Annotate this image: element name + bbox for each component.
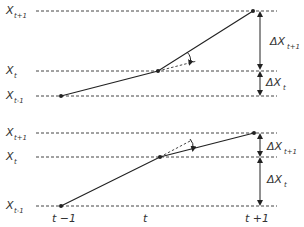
svg-text:X: X	[5, 126, 14, 139]
svg-text:t+1: t+1	[14, 134, 27, 142]
tick-t-plus-1: t +1	[245, 212, 269, 225]
delta-label-t-bottom: ΔX t	[266, 173, 287, 189]
label-x-t-top: X t	[5, 64, 17, 80]
label-x-t-plus-1-top: X t+1	[5, 4, 27, 20]
svg-text:X: X	[5, 89, 14, 102]
label-x-t-bottom: X t	[5, 150, 17, 166]
extrapolation-line-top	[158, 61, 197, 71]
svg-text:ΔX: ΔX	[265, 76, 282, 89]
tick-t-minus-1: t −1	[52, 212, 76, 225]
point-t-minus-1-top	[59, 94, 63, 98]
point-t-minus-1-bottom	[59, 204, 63, 208]
bottom-panel: X t+1 X t X t-1 ΔX t+1 ΔX t	[5, 126, 297, 215]
delta-label-t-plus-1-top: ΔX t+1	[269, 35, 300, 51]
point-t-plus-1-bottom	[252, 131, 256, 135]
top-panel: X t+1 X t X t-1 ΔX t+1	[5, 4, 300, 105]
svg-text:t-1: t-1	[14, 207, 24, 215]
tick-t: t	[143, 212, 148, 225]
point-t-plus-1-top	[251, 9, 255, 13]
svg-text:X: X	[5, 150, 14, 163]
svg-text:t: t	[14, 158, 17, 166]
svg-text:t: t	[283, 84, 286, 92]
svg-text:ΔX: ΔX	[266, 173, 283, 186]
angle-arc-top	[187, 52, 191, 63]
time-axis: t −1 t t +1	[52, 212, 269, 225]
svg-text:t: t	[284, 181, 287, 189]
svg-text:t+1: t+1	[287, 43, 300, 51]
svg-text:X: X	[5, 199, 14, 212]
svg-text:X: X	[5, 4, 14, 17]
svg-text:t+1: t+1	[284, 148, 297, 156]
delta-label-t-top: ΔX t	[265, 76, 286, 92]
svg-text:t: t	[14, 72, 17, 80]
label-x-t-minus-1-bottom: X t-1	[5, 199, 24, 215]
trajectory-bottom	[61, 133, 254, 206]
label-x-t-plus-1-bottom: X t+1	[5, 126, 27, 142]
point-t-bottom	[158, 155, 162, 159]
point-t-top	[156, 69, 160, 73]
angle-arc-bottom	[190, 139, 193, 149]
svg-text:t-1: t-1	[14, 97, 24, 105]
svg-text:X: X	[5, 64, 14, 77]
delta-label-t-plus-1-bottom: ΔX t+1	[266, 140, 297, 156]
label-x-t-minus-1-top: X t-1	[5, 89, 24, 105]
trajectory-top	[61, 11, 253, 96]
diagram-canvas: X t+1 X t X t-1 ΔX t+1	[0, 0, 304, 227]
svg-text:ΔX: ΔX	[266, 140, 283, 153]
svg-text:t+1: t+1	[14, 12, 27, 20]
svg-text:ΔX: ΔX	[269, 35, 286, 48]
extrapolation-line-bottom	[160, 140, 192, 157]
